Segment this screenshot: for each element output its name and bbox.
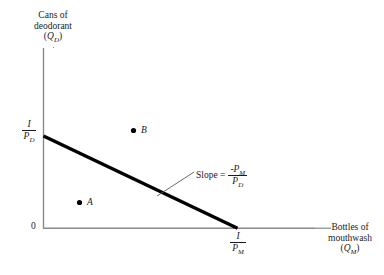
- x-axis-quantity-symbol: Q: [344, 243, 351, 253]
- x-intercept-price-subscript: M: [238, 248, 244, 256]
- point-a-marker: [77, 200, 82, 205]
- slope-leader-line: [157, 172, 194, 196]
- x-intercept-numerator: I: [230, 231, 246, 243]
- x-intercept-label: I PM: [226, 231, 250, 254]
- x-axis-title-line-2: mouthwash: [318, 233, 382, 244]
- y-axis-quantity-symbol: Q: [47, 31, 54, 41]
- x-intercept-denominator: PM: [230, 243, 246, 254]
- x-axis-title-line-1: Bottles of: [318, 222, 382, 233]
- y-axis-title-line-2: deodorant: [14, 21, 92, 32]
- slope-label: Slope =: [196, 171, 225, 181]
- y-axis-title-line-1: Cans of: [14, 10, 92, 21]
- slope-fraction: -PM PD: [228, 164, 247, 187]
- y-intercept-numerator: I: [22, 119, 37, 131]
- slope-annotation: Slope = -PM PD: [196, 164, 247, 187]
- x-axis-title-line-3: (QM): [318, 243, 382, 254]
- slope-numerator: -PM: [228, 164, 247, 176]
- point-a-label: A: [87, 197, 93, 208]
- budget-constraint-figure: Cans of deodorant (QD) Bottles of mouthw…: [0, 0, 384, 275]
- y-intercept-label: I PD: [18, 119, 40, 142]
- point-b-label: B: [141, 125, 147, 136]
- slope-denominator-subscript: D: [238, 181, 243, 189]
- slope-denominator: PD: [228, 176, 247, 187]
- y-intercept-price-subscript: D: [29, 136, 34, 144]
- x-intercept-fraction: I PM: [230, 231, 246, 254]
- y-intercept-fraction: I PD: [22, 119, 37, 142]
- x-axis-title: Bottles of mouthwash (QM): [318, 222, 382, 254]
- y-intercept-denominator: PD: [22, 131, 37, 142]
- x-axis-paren-close: ): [356, 243, 359, 253]
- y-axis-paren-close: ): [59, 31, 62, 41]
- origin-label: 0: [31, 221, 36, 232]
- y-axis-title-line-3: (QD): [14, 31, 92, 42]
- point-b-marker: [131, 128, 136, 133]
- y-axis-title: Cans of deodorant (QD): [14, 10, 92, 42]
